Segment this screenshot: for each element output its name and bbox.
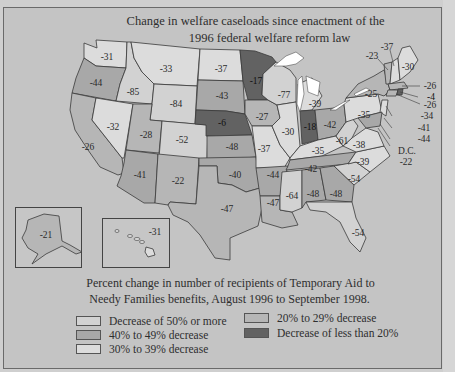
label-ks: -48 xyxy=(226,142,239,152)
label-ak: -21 xyxy=(40,230,53,240)
label-nd: -37 xyxy=(215,64,228,74)
label-il: -30 xyxy=(282,127,295,137)
hawaii-inset: -31 xyxy=(102,218,170,268)
us-map: -31 -44 -26 -85 -32 -33 -84 -28 -52 -41 … xyxy=(0,0,455,372)
label-pa: -35 xyxy=(358,110,371,120)
label-ne: -6 xyxy=(218,118,226,128)
alaska-inset: -21 xyxy=(15,207,82,268)
label-nj: -34 xyxy=(421,111,434,121)
legend-label: 30% to 39% decrease xyxy=(109,343,208,355)
label-wv: -61 xyxy=(336,136,349,146)
label-az: -41 xyxy=(134,170,147,180)
state-hi xyxy=(145,247,155,257)
label-ma: -26 xyxy=(424,81,437,91)
label-me: -30 xyxy=(402,62,415,72)
legend-label: Decrease of 50% or more xyxy=(109,315,227,327)
label-ca: -26 xyxy=(82,142,95,152)
label-vt: -23 xyxy=(366,51,379,61)
label-hi: -31 xyxy=(149,227,162,237)
state-fl xyxy=(306,202,366,252)
legend-swatch xyxy=(76,316,101,326)
label-va: -38 xyxy=(353,140,366,150)
label-sc: -54 xyxy=(348,174,361,184)
label-mn: -17 xyxy=(250,76,263,86)
label-nc: -39 xyxy=(357,157,370,167)
label-ar: -44 xyxy=(267,170,280,180)
label-la: -47 xyxy=(267,198,280,208)
label-ny: -25 xyxy=(365,89,378,99)
label-nm: -22 xyxy=(172,176,185,186)
label-ms: -64 xyxy=(286,191,299,201)
label-nv: -32 xyxy=(107,122,120,132)
legend-label: 20% to 29% decrease xyxy=(277,312,376,324)
legend-label: Decrease of less than 20% xyxy=(277,327,398,339)
label-tn: -42 xyxy=(305,164,318,174)
label-wy: -84 xyxy=(170,99,183,109)
label-ky: -35 xyxy=(312,146,325,156)
legend-item-40-49: 40% to 49% decrease xyxy=(76,329,208,341)
label-mt: -33 xyxy=(160,64,173,74)
label-tx: -47 xyxy=(221,204,234,214)
caption-line2: Needy Families benefits, August 1996 to … xyxy=(2,292,455,307)
label-ga: -48 xyxy=(330,189,343,199)
state-ct xyxy=(386,90,398,96)
label-md: -44 xyxy=(418,134,431,144)
label-co: -52 xyxy=(176,135,189,145)
legend-item-20-29: 20% to 29% decrease xyxy=(244,312,376,324)
label-sd: -43 xyxy=(216,91,229,101)
label-oh: -42 xyxy=(324,120,337,130)
legend-item-under-20: Decrease of less than 20% xyxy=(244,327,398,339)
label-dc-name: D.C. xyxy=(398,146,416,156)
label-dc: -22 xyxy=(400,157,413,167)
legend-swatch xyxy=(244,328,269,338)
label-fl: -54 xyxy=(352,228,365,238)
label-ok: -40 xyxy=(229,170,242,180)
label-ia: -27 xyxy=(256,112,269,122)
label-al: -48 xyxy=(307,189,320,199)
label-ut: -28 xyxy=(140,130,153,140)
label-mi: -39 xyxy=(309,99,322,109)
legend-item-30-39: 30% to 39% decrease xyxy=(76,343,208,355)
label-id: -85 xyxy=(127,87,140,97)
label-or: -44 xyxy=(90,78,103,88)
caption-line1: Percent change in number of recipients o… xyxy=(3,276,455,291)
legend-swatch xyxy=(244,313,269,323)
label-nh: -37 xyxy=(381,42,394,52)
label-wa: -31 xyxy=(101,52,114,62)
label-in: -18 xyxy=(304,122,317,132)
label-ct: -26 xyxy=(424,100,437,110)
legend-item-50-plus: Decrease of 50% or more xyxy=(76,315,227,327)
label-de: -41 xyxy=(418,123,431,133)
legend-label: 40% to 49% decrease xyxy=(109,329,208,341)
label-wi: -77 xyxy=(278,90,291,100)
lake-superior xyxy=(274,52,304,66)
legend-swatch xyxy=(76,344,101,354)
legend-swatch xyxy=(76,330,101,340)
label-mo: -37 xyxy=(258,144,271,154)
